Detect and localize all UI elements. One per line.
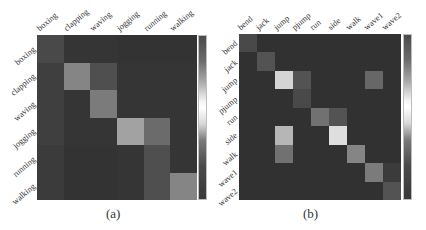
heatmap-cell — [239, 34, 257, 52]
heatmap-cell — [293, 163, 311, 181]
colorbar-b — [403, 34, 412, 200]
x-tick-label: side — [325, 16, 342, 32]
x-tick-label: running — [141, 8, 168, 33]
heatmap-cell — [311, 163, 329, 181]
heatmap-cell — [257, 163, 275, 181]
heatmap-cell — [329, 108, 347, 126]
heatmap-cell — [329, 34, 347, 52]
heatmap-cell — [64, 145, 91, 173]
heatmap-cell — [275, 145, 293, 163]
heatmap-cell — [117, 118, 144, 146]
heatmap-cell — [347, 163, 365, 181]
heatmap-cell — [347, 52, 365, 70]
heatmap-cell — [329, 163, 347, 181]
heatmap-cell — [257, 52, 275, 70]
heatmap-cell — [144, 118, 171, 146]
x-tick-label: wave1 — [361, 10, 384, 32]
heatmap-cell — [293, 108, 311, 126]
heatmap-cell — [275, 163, 293, 181]
heatmap-cell — [347, 145, 365, 163]
x-tick-label: wave2 — [379, 10, 402, 32]
heatmap-cell — [365, 126, 383, 144]
heatmap-cell — [144, 145, 171, 173]
heatmap-cell — [347, 182, 365, 200]
heatmap-cell — [64, 90, 91, 118]
heatmap-cell — [90, 118, 117, 146]
heatmap-cell — [311, 34, 329, 52]
heatmap-cell — [117, 145, 144, 173]
heatmap-cell — [365, 71, 383, 89]
heatmap-cell — [37, 35, 64, 63]
heatmap-cell — [239, 71, 257, 89]
heatmap-cell — [64, 63, 91, 91]
heatmap-cell — [37, 118, 64, 146]
heatmap-cell — [311, 145, 329, 163]
heatmap-cell — [365, 145, 383, 163]
heatmap-cell — [144, 173, 171, 201]
heatmap-cell — [347, 108, 365, 126]
heatmap-cell — [275, 52, 293, 70]
x-tick-label: walking — [168, 8, 195, 33]
heatmap-cell — [365, 89, 383, 107]
heatmap-cell — [239, 126, 257, 144]
x-tick-label: boxing — [35, 10, 60, 33]
heatmap-cell — [257, 108, 275, 126]
heatmap-cell — [37, 63, 64, 91]
heatmap-cell — [311, 182, 329, 200]
heatmap-cell — [275, 34, 293, 52]
heatmap-cell — [275, 126, 293, 144]
x-tick-label: jack — [253, 15, 270, 32]
heatmap-cell — [293, 126, 311, 144]
heatmap-cell — [365, 34, 383, 52]
heatmap-cell — [311, 89, 329, 107]
heatmap-cell — [117, 90, 144, 118]
heatmap-cell — [117, 63, 144, 91]
confusion-matrix-b — [239, 34, 401, 200]
heatmap-cell — [275, 108, 293, 126]
heatmap-cell — [257, 34, 275, 52]
heatmap-cell — [383, 145, 401, 163]
heatmap-cell — [329, 182, 347, 200]
x-tick-label: jogging — [115, 9, 141, 33]
x-tick-label: clapping — [61, 7, 90, 33]
heatmap-cell — [117, 35, 144, 63]
heatmap-cell — [117, 173, 144, 201]
heatmap-cell — [239, 163, 257, 181]
caption-a: (a) — [106, 206, 120, 222]
heatmap-cell — [239, 145, 257, 163]
heatmap-cell — [311, 126, 329, 144]
heatmap-cell — [90, 145, 117, 173]
caption-b: (b) — [303, 206, 318, 222]
heatmap-cell — [37, 145, 64, 173]
confusion-matrix-a — [37, 35, 197, 200]
heatmap-cell — [293, 71, 311, 89]
heatmap-cell — [90, 35, 117, 63]
heatmap-cell — [239, 108, 257, 126]
heatmap-cell — [37, 173, 64, 201]
heatmap-cell — [383, 163, 401, 181]
heatmap-cell — [383, 34, 401, 52]
heatmap-cell — [257, 182, 275, 200]
heatmap-cell — [275, 71, 293, 89]
heatmap-cell — [239, 89, 257, 107]
heatmap-cell — [275, 89, 293, 107]
heatmap-cell — [293, 145, 311, 163]
heatmap-cell — [37, 90, 64, 118]
x-tick-label: bend — [235, 14, 254, 32]
heatmap-cell — [347, 71, 365, 89]
heatmap-cell — [383, 89, 401, 107]
heatmap-cell — [329, 52, 347, 70]
heatmap-cell — [293, 89, 311, 107]
heatmap-cell — [311, 108, 329, 126]
heatmap-cell — [144, 35, 171, 63]
heatmap-cell — [383, 126, 401, 144]
heatmap-cell — [329, 145, 347, 163]
heatmap-cell — [329, 126, 347, 144]
heatmap-cell — [64, 173, 91, 201]
heatmap-cell — [170, 35, 197, 63]
heatmap-cell — [365, 108, 383, 126]
heatmap-cell — [90, 90, 117, 118]
heatmap-cell — [347, 89, 365, 107]
heatmap-cell — [257, 89, 275, 107]
heatmap-cell — [347, 126, 365, 144]
